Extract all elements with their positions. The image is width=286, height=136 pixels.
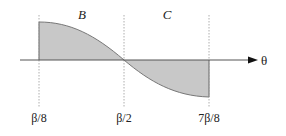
region-c-label: C xyxy=(163,7,172,22)
region-b-fill xyxy=(39,22,124,60)
tick-label-beta-8: β/8 xyxy=(31,111,46,125)
region-b-label: B xyxy=(78,7,86,22)
tick-label-7beta-8: 7β/8 xyxy=(198,111,219,125)
axis-arrowhead-icon xyxy=(248,57,258,64)
axis-label: θ xyxy=(261,53,267,68)
tick-label-beta-2: β/2 xyxy=(116,111,131,125)
region-c-fill xyxy=(124,60,209,97)
area-diagram: θ B C β/8 β/2 7β/8 xyxy=(0,0,286,136)
